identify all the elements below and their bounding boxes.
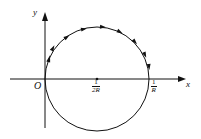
diagram: y x O 1 2R 1 R <box>0 0 201 139</box>
x-axis-arrow-icon <box>178 76 186 82</box>
intercept-label: 1 R <box>151 79 157 94</box>
center-label: 1 2R <box>92 79 100 94</box>
direction-arrows <box>46 25 151 71</box>
x-axis-label: x <box>186 80 190 89</box>
y-axis-arrow-icon <box>42 12 48 21</box>
origin-label: O <box>34 81 41 91</box>
circle-diagram-svg <box>0 0 201 139</box>
y-axis-label: y <box>33 8 37 17</box>
